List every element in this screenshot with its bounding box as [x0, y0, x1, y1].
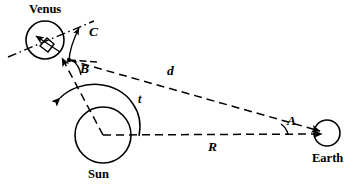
- angle-b-label: B: [80, 62, 89, 76]
- angle-c-label: C: [89, 25, 98, 39]
- venus-label: Venus: [29, 3, 61, 16]
- sun-label: Sun: [88, 168, 109, 181]
- tangent-point-marker: [67, 58, 71, 62]
- astronomy-diagram: Venus Sun Earth d R A B C t: [0, 0, 362, 189]
- distance-d-label: d: [167, 64, 174, 78]
- line-venus-reference-dashdot: [8, 21, 94, 57]
- angle-t-label: t: [138, 93, 141, 105]
- line-distance-r: [103, 134, 322, 135]
- line-distance-d: [69, 60, 320, 131]
- angle-a-label: A: [287, 114, 296, 128]
- arc-angle-c: [69, 28, 79, 60]
- diagram-canvas: [0, 0, 362, 189]
- earth-label: Earth: [312, 152, 343, 165]
- earth-disc: [314, 120, 340, 146]
- distance-r-label: R: [208, 140, 217, 154]
